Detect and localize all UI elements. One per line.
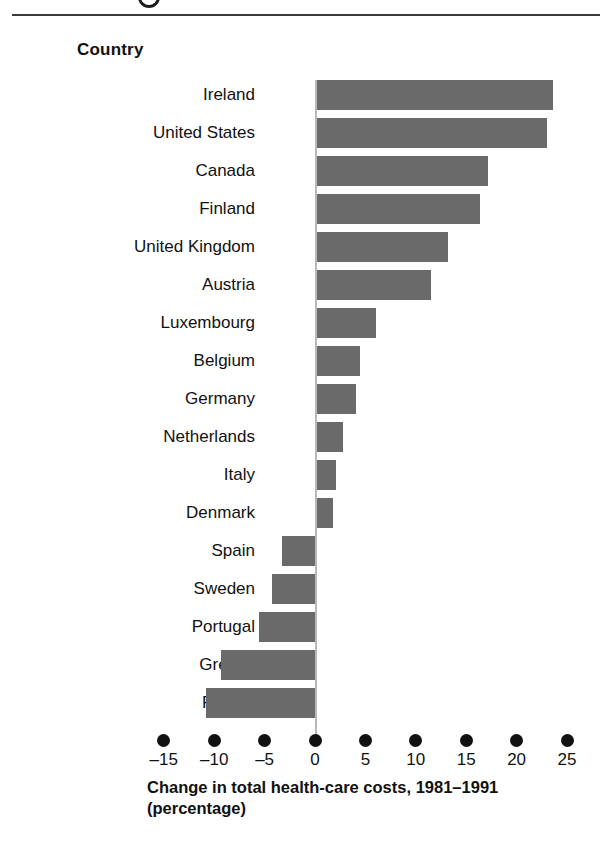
bar-row-label: United States (45, 124, 255, 141)
bar-row-label: Luxembourg (45, 314, 255, 331)
x-axis-tick-label: 5 (342, 750, 388, 770)
bar-row: Greece (0, 650, 612, 680)
bar-row: France (0, 688, 612, 718)
x-axis-tick-dot (510, 734, 523, 747)
bar-row: United Kingdom (0, 232, 612, 262)
x-axis-tick-label: –15 (141, 750, 187, 770)
bar-row-label: Germany (45, 390, 255, 407)
bar-netherlands (315, 422, 343, 452)
bar-italy (315, 460, 336, 490)
x-axis-tick-label: –10 (191, 750, 237, 770)
bar-row: Italy (0, 460, 612, 490)
bar-row-label: Italy (45, 466, 255, 483)
x-axis-tick-dot (409, 734, 422, 747)
country-column-header: Country (77, 40, 144, 60)
bar-row-label: Ireland (45, 86, 255, 103)
bar-row: Ireland (0, 80, 612, 110)
bar-ireland (315, 80, 553, 110)
bar-row: Canada (0, 156, 612, 186)
bar-austria (315, 270, 431, 300)
bar-greece (221, 650, 315, 680)
x-axis-tick-label: 15 (443, 750, 489, 770)
bar-row: Sweden (0, 574, 612, 604)
bar-denmark (315, 498, 333, 528)
x-axis-tick-dot (157, 734, 170, 747)
bar-spain (282, 536, 315, 566)
bar-row: Netherlands (0, 422, 612, 452)
bar-row-label: Denmark (45, 504, 255, 521)
figure-number-glyph (138, 0, 160, 8)
bar-row: Germany (0, 384, 612, 414)
bar-row-label: Finland (45, 200, 255, 217)
bar-germany (315, 384, 356, 414)
header-divider-rule (12, 14, 600, 16)
bar-chart-plot-area: IrelandUnited StatesCanadaFinlandUnited … (0, 80, 612, 720)
bar-row: Luxembourg (0, 308, 612, 338)
bar-united-kingdom (315, 232, 448, 262)
bar-finland (315, 194, 480, 224)
bar-row: Spain (0, 536, 612, 566)
x-axis-tick-dot (561, 734, 574, 747)
x-axis-tick-dot (309, 734, 322, 747)
bar-united-states (315, 118, 547, 148)
x-axis-tick-label: 20 (494, 750, 540, 770)
bar-row: Denmark (0, 498, 612, 528)
x-axis-title-line2: (percentage) (147, 798, 607, 819)
bar-sweden (272, 574, 315, 604)
bar-canada (315, 156, 488, 186)
bar-row: United States (0, 118, 612, 148)
x-axis-tick-dot (208, 734, 221, 747)
bar-belgium (315, 346, 360, 376)
bar-row: Finland (0, 194, 612, 224)
bar-row-label: Spain (45, 542, 255, 559)
x-axis-tick-label: 0 (292, 750, 338, 770)
bar-luxembourg (315, 308, 376, 338)
x-axis-title-line1: Change in total health-care costs, 1981–… (147, 777, 607, 798)
bar-row: Belgium (0, 346, 612, 376)
bar-row-label: Canada (45, 162, 255, 179)
bar-row-label: Portugal (45, 618, 255, 635)
bar-row-label: Sweden (45, 580, 255, 597)
x-axis-tick-dot (359, 734, 372, 747)
bar-row-label: Belgium (45, 352, 255, 369)
bar-row: Austria (0, 270, 612, 300)
x-axis-title: Change in total health-care costs, 1981–… (147, 777, 607, 819)
x-axis-tick-dot (258, 734, 271, 747)
bar-row: Portugal (0, 612, 612, 642)
bar-france (206, 688, 315, 718)
x-axis-tick-dot (460, 734, 473, 747)
x-axis-tick-label: 10 (393, 750, 439, 770)
bar-portugal (259, 612, 315, 642)
bar-row-label: United Kingdom (45, 238, 255, 255)
bar-row-label: Austria (45, 276, 255, 293)
x-axis-tick-label: –5 (242, 750, 288, 770)
x-axis-tick-label: 25 (544, 750, 590, 770)
bar-row-label: Netherlands (45, 428, 255, 445)
zero-axis-line (315, 80, 317, 740)
